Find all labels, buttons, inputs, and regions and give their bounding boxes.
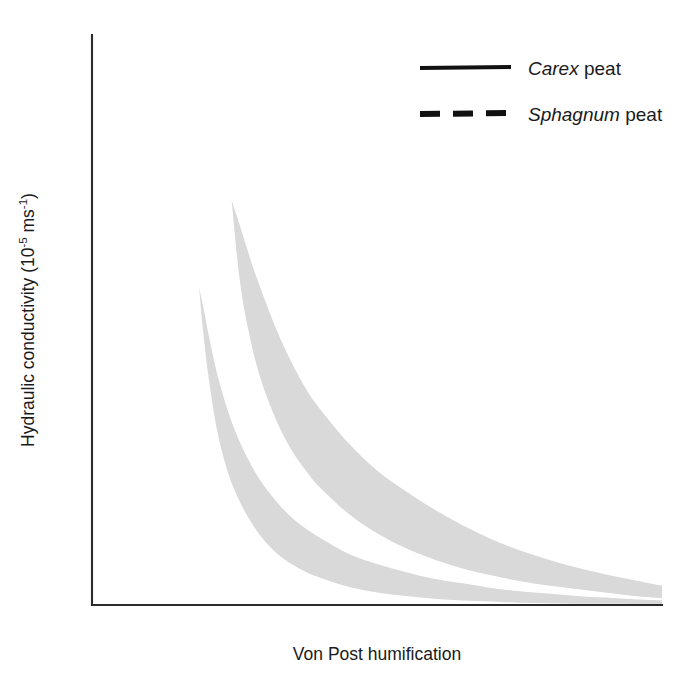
legend-carex-genus: Carex [528,58,580,79]
y-axis-title-prefix: Hydraulic conductivity (10 [18,247,38,447]
legend-carex-rest: peat [579,58,622,79]
y-axis-title-group: Hydraulic conductivity (10-5 ms-1) [17,193,38,447]
legend-sphagnum-label: Sphagnum peat [528,104,663,125]
x-axis-title: Von Post humification [293,644,461,664]
hydraulic-conductivity-chart: Von Post humification Hydraulic conducti… [0,0,699,681]
y-axis-title-exponent-5: -5 [17,237,29,247]
legend-carex-label: Carex peat [528,58,622,79]
y-axis-title-mid: ms [18,209,38,237]
legend-carex-line-swatch [420,67,511,68]
y-axis-title-suffix: ) [18,193,38,199]
figure-root: Von Post humification Hydraulic conducti… [0,0,699,681]
confidence-bands [199,200,662,604]
legend-sphagnum-rest: peat [620,104,663,125]
y-axis-title: Hydraulic conductivity (10-5 ms-1) [17,193,38,447]
y-axis-title-exponent-1: -1 [17,199,29,209]
legend: Carex peat Sphagnum peat [420,58,663,125]
legend-sphagnum-line-swatch [420,113,511,114]
legend-sphagnum-genus: Sphagnum [528,104,620,125]
